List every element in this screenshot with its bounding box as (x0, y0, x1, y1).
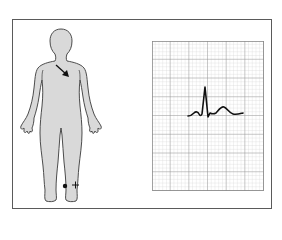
ecg-paper-grid (152, 41, 264, 191)
electrode-dot (63, 184, 67, 188)
body-silhouette (21, 29, 102, 202)
